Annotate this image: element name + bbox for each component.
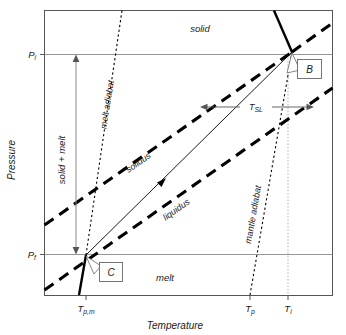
xtick-label-Ti: Ti xyxy=(284,303,292,315)
region-label-melt: melt xyxy=(156,272,174,283)
callout-label-B: B xyxy=(306,64,313,75)
Pf-sub: f xyxy=(34,254,37,261)
Pi-sub: i xyxy=(34,54,36,61)
callout-label-C: C xyxy=(107,267,115,278)
Tsl-sub: SL xyxy=(255,106,264,113)
region-label-solid-plus-melt: solid + melt xyxy=(56,135,67,184)
Ti-sub: i xyxy=(290,308,292,315)
Tpm-sub: p,m xyxy=(82,308,95,316)
Tp-sub: p xyxy=(250,308,255,316)
region-label-solid: solid xyxy=(190,23,210,34)
x-axis-title: Temperature xyxy=(147,320,204,331)
xtick-label-Tpm: Tp,m xyxy=(77,303,94,316)
ytick-label-Pi: Pi xyxy=(28,49,36,61)
y-axis-title: Pressure xyxy=(6,140,17,180)
phase-diagram-figure: B C solid solid + melt melt solidus liqu… xyxy=(0,0,346,335)
xtick-label-Tp: Tp xyxy=(245,303,255,316)
ytick-label-Pf: Pf xyxy=(28,249,37,261)
